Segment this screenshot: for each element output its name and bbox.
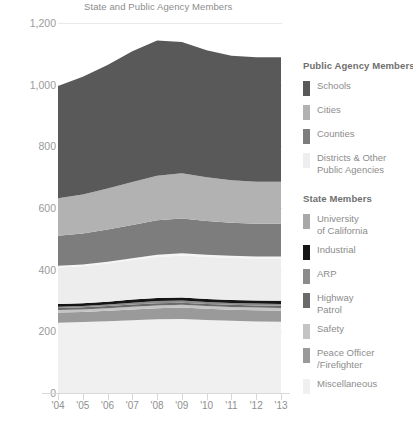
x-axis-labels: '04'05'06'07'08'09'10'11'12'13 [0, 400, 300, 420]
legend-item-label: Highway Patrol [317, 292, 353, 315]
legend-swatch-icon [303, 129, 310, 144]
legend-swatch-icon [303, 269, 310, 284]
legend-item-label: Counties [317, 128, 355, 140]
legend-item-label: Peace Officer /Firefighter [317, 347, 374, 370]
chart-legend: Public Agency MembersSchoolsCitiesCounti… [303, 60, 413, 402]
legend-item[interactable]: University of California [303, 213, 413, 236]
x-axis-tick [108, 393, 109, 400]
legend-swatch-icon [303, 293, 310, 308]
chart-container: State and Public Agency Members 02004006… [0, 0, 413, 424]
x-axis-tick-label: '07 [126, 400, 139, 411]
legend-item[interactable]: Miscellaneous [303, 378, 413, 394]
x-axis-tick-label: '06 [101, 400, 114, 411]
legend-item[interactable]: Counties [303, 128, 413, 144]
legend-item-label: Industrial [317, 244, 356, 256]
y-axis-tick-label: 1,200 [4, 17, 56, 29]
x-axis-tick [207, 393, 208, 400]
legend-group-title: State Members [303, 193, 413, 204]
y-axis-labels: 02004006008001,0001,200 [0, 0, 56, 424]
x-axis-tick [182, 393, 183, 400]
x-axis-tick [231, 393, 232, 400]
legend-item[interactable]: Schools [303, 80, 413, 96]
legend-swatch-icon [303, 81, 310, 96]
y-axis-tick-label: 800 [4, 140, 56, 152]
x-axis-line [42, 393, 290, 394]
legend-item-label: University of California [317, 213, 368, 236]
x-axis-tick-label: '13 [274, 400, 287, 411]
x-axis-tick [256, 393, 257, 400]
legend-item-label: Schools [317, 80, 351, 92]
x-axis-tick [132, 393, 133, 400]
legend-swatch-icon [303, 379, 310, 394]
x-axis-tick-label: '04 [51, 400, 64, 411]
legend-group-title: Public Agency Members [303, 60, 413, 71]
x-axis-tick [58, 393, 59, 400]
x-axis-tick [281, 393, 282, 400]
legend-item-label: Safety [317, 323, 344, 335]
x-axis-tick-label: '10 [200, 400, 213, 411]
legend-swatch-icon [303, 324, 310, 339]
y-axis-tick-label: 400 [4, 264, 56, 276]
x-axis-tick-label: '05 [76, 400, 89, 411]
plot-area [58, 23, 282, 393]
y-axis-tick-label: 600 [4, 202, 56, 214]
legend-item[interactable]: ARP [303, 268, 413, 284]
legend-item[interactable]: Districts & Other Public Agencies [303, 152, 413, 175]
x-axis-tick-label: '09 [175, 400, 188, 411]
x-axis-tick-label: '11 [225, 400, 237, 411]
legend-item[interactable]: Industrial [303, 244, 413, 260]
area-series-miscellaneous [58, 319, 281, 393]
y-axis-tick-label: 1,000 [4, 79, 56, 91]
legend-swatch-icon [303, 153, 310, 168]
legend-swatch-icon [303, 214, 310, 229]
legend-item[interactable]: Highway Patrol [303, 292, 413, 315]
legend-item[interactable]: Peace Officer /Firefighter [303, 347, 413, 370]
legend-swatch-icon [303, 245, 310, 260]
legend-item[interactable]: Cities [303, 104, 413, 120]
legend-item-label: Cities [317, 104, 341, 116]
legend-item[interactable]: Safety [303, 323, 413, 339]
chart-title: State and Public Agency Members [84, 1, 232, 12]
legend-item-label: ARP [317, 268, 337, 280]
x-axis-tick [83, 393, 84, 400]
legend-swatch-icon [303, 105, 310, 120]
legend-swatch-icon [303, 348, 310, 363]
stacked-area-plot [58, 23, 282, 393]
x-axis-tick-label: '12 [250, 400, 263, 411]
y-axis-tick-label: 200 [4, 325, 56, 337]
legend-item-label: Miscellaneous [317, 378, 377, 390]
legend-item-label: Districts & Other Public Agencies [317, 152, 386, 175]
x-axis-tick-label: '08 [151, 400, 164, 411]
x-axis-tick [157, 393, 158, 400]
